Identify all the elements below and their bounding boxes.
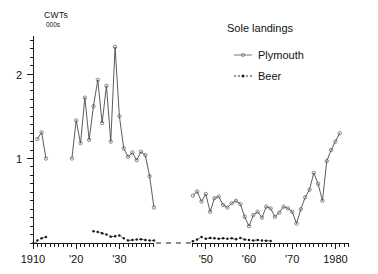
x-axis-tick-label: 1980 (323, 253, 347, 265)
data-point-beer (127, 239, 130, 242)
data-point-beer (222, 237, 225, 240)
y-axis-title: CWTs 000s (44, 10, 68, 28)
data-point-beer (114, 235, 117, 238)
series-line-plymouth (193, 133, 340, 226)
x-axis-tick-label: '30 (112, 253, 126, 265)
legend-title: Sole landings (227, 22, 294, 34)
data-point-beer (192, 240, 195, 243)
x-axis-tick-label: '50 (199, 253, 213, 265)
data-point-beer (122, 237, 125, 240)
data-point-beer (239, 237, 242, 240)
legend-label-beer: Beer (258, 70, 282, 82)
data-point-beer (97, 231, 100, 234)
data-point-beer (269, 240, 272, 243)
data-point-beer (105, 233, 108, 236)
data-point-beer (252, 239, 255, 242)
data-point-beer (196, 238, 199, 241)
y-axis-tick-label: 1 (16, 153, 22, 165)
data-point-beer (226, 238, 229, 241)
data-point-beer (135, 238, 138, 241)
tick-labels-layer: 121910'20'30'50'60'701980 (16, 69, 348, 266)
data-point-beer (243, 238, 246, 241)
sole-landings-chart: CWTs 000s Sole landings Plymouth Beer 12… (0, 0, 378, 274)
data-point-beer (265, 239, 268, 242)
data-point-beer (218, 238, 221, 241)
series-layer (36, 45, 342, 242)
legend-item-beer: Beer (234, 70, 282, 82)
chart-figure: CWTs 000s Sole landings Plymouth Beer 12… (0, 0, 378, 274)
data-point-beer (140, 238, 143, 241)
series-line-plymouth (37, 132, 46, 158)
data-point-beer (118, 234, 121, 237)
series-plymouth (36, 45, 342, 228)
data-point-beer (148, 239, 151, 242)
data-point-beer (230, 237, 233, 240)
legend-marker-beer-icon (242, 75, 245, 78)
data-point-beer (261, 239, 264, 242)
data-point-beer (200, 236, 203, 239)
data-point-beer (101, 232, 104, 235)
data-point-beer (45, 236, 48, 239)
legend-item-plymouth: Plymouth (234, 49, 304, 61)
legend-label-plymouth: Plymouth (258, 49, 304, 61)
y-axis-title-line1: CWTs (44, 10, 68, 20)
data-point-beer (144, 239, 147, 242)
data-point-beer (248, 239, 251, 242)
x-axis-tick-label: '20 (69, 253, 83, 265)
axes-layer (27, 36, 348, 249)
data-point-beer (36, 239, 39, 242)
x-axis-tick-label: '60 (242, 253, 256, 265)
data-point-beer (209, 237, 212, 240)
legend: Sole landings Plymouth Beer (227, 22, 304, 82)
x-axis-tick-label: 1910 (21, 253, 45, 265)
data-point-beer (92, 230, 95, 233)
data-point-beer (131, 239, 134, 242)
data-point-beer (153, 239, 156, 242)
y-axis-tick-label: 2 (16, 69, 22, 81)
data-point-beer (235, 238, 238, 241)
data-point-beer (110, 235, 113, 238)
data-point-beer (205, 238, 208, 241)
data-point-beer (256, 239, 259, 242)
x-axis-tick-label: '70 (285, 253, 299, 265)
data-point-beer (40, 237, 43, 240)
series-beer (36, 230, 272, 243)
y-axis-title-line2: 000s (46, 21, 61, 28)
series-line-plymouth (72, 47, 154, 208)
data-point-beer (213, 237, 216, 240)
